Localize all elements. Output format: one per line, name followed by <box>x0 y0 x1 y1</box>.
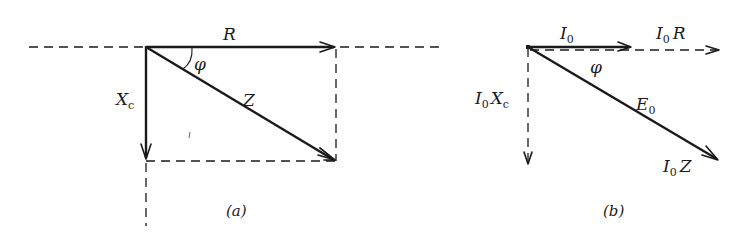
print-speck <box>189 132 190 138</box>
label-i0xc: I0Xc <box>474 88 509 111</box>
phase-angle-arc <box>183 48 192 69</box>
label-i0: I0 <box>559 23 574 46</box>
label-i0r: I0R <box>655 23 686 46</box>
label-r: R <box>222 24 236 44</box>
label-z: Z <box>242 90 256 110</box>
label-phi-b: φ <box>590 57 602 77</box>
vector-e0 <box>528 47 718 160</box>
label-i0z: I0Z <box>662 156 693 179</box>
label-e0: E0 <box>635 94 655 117</box>
vector-r <box>146 42 335 52</box>
vector-i0xc <box>524 48 532 164</box>
label-xc: Xc <box>114 89 134 112</box>
arrowhead-e0 <box>702 146 718 160</box>
caption-b: (b) <box>603 202 624 220</box>
caption-a: (a) <box>226 202 247 220</box>
vector-z <box>146 47 335 160</box>
phasor-diagram: R Xc Z φ (a) I0 I0R I0Xc E0 <box>0 0 752 238</box>
origin-point <box>526 45 530 49</box>
vector-xc <box>141 46 151 159</box>
panel-b: I0 I0R I0Xc E0 I0Z φ (b) <box>474 23 719 220</box>
panel-a: R Xc Z φ (a) <box>29 24 442 226</box>
label-phi-a: φ <box>194 54 206 74</box>
